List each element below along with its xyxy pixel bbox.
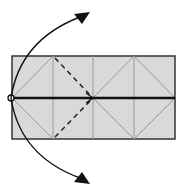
origami-diagram: [0, 0, 183, 189]
arrowhead-down-icon: [74, 172, 90, 184]
